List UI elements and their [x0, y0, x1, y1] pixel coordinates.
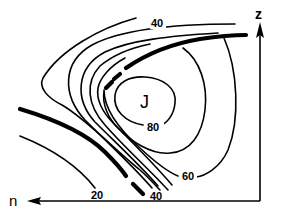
label-60: 60 [182, 170, 194, 182]
contour-60 [196, 38, 236, 177]
horizontal-axis-arrow-icon [27, 197, 41, 205]
label-40-bottom: 40 [150, 190, 162, 202]
jet-core-label: J [140, 92, 149, 112]
contour-70 [104, 48, 206, 153]
thick-dash-2 [106, 82, 112, 88]
contour-20 [20, 136, 95, 188]
thick-dash-1 [114, 74, 120, 79]
label-20: 20 [91, 189, 103, 201]
axis-label-z: z [255, 6, 262, 22]
thick-front-lower-dash [133, 184, 143, 194]
axis-label-n: n [9, 192, 17, 209]
contours [20, 18, 236, 190]
jet-stream-diagram: z n 40 80 60 40 [0, 0, 283, 222]
label-80: 80 [147, 121, 159, 133]
label-40-top: 40 [151, 17, 163, 29]
